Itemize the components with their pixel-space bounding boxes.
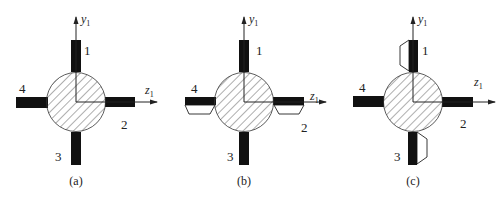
arm-label-3: 3 xyxy=(227,149,234,164)
z-axis-label: z1 xyxy=(309,89,319,105)
arm-label-3: 3 xyxy=(394,149,401,164)
arm-label-1: 1 xyxy=(84,43,91,58)
arm-3 xyxy=(71,132,81,165)
arm-label-2: 2 xyxy=(121,117,128,132)
panel-c: y1 z1 1 2 3 4 (c) xyxy=(353,12,495,188)
outlined-block-left-of-arm-1 xyxy=(400,40,409,71)
caption-b: (b) xyxy=(237,174,251,188)
panel-b: y1 z1 1 2 3 4 (b) xyxy=(185,12,326,188)
caption-c: (c) xyxy=(406,174,419,188)
arm-label-3: 3 xyxy=(55,149,62,164)
outlined-block-right-of-arm-3 xyxy=(417,132,427,164)
arm-4 xyxy=(185,97,216,105)
y-axis-label: y1 xyxy=(417,12,427,28)
y-axis-label: y1 xyxy=(248,12,258,28)
arm-3 xyxy=(239,132,249,165)
arm-label-4: 4 xyxy=(191,81,198,96)
z-axis-label: z1 xyxy=(473,75,483,91)
arm-label-2: 2 xyxy=(460,116,467,131)
z-axis-label: z1 xyxy=(144,83,154,99)
panel-a: y1 z1 1 2 3 4 (a) xyxy=(16,12,157,188)
cross-section-diagram: y1 z1 1 2 3 4 (a) y1 z1 1 2 3 4 (b) xyxy=(0,0,503,197)
arm-label-4: 4 xyxy=(19,81,26,96)
arm-3 xyxy=(408,132,417,165)
arm-label-1: 1 xyxy=(256,43,263,58)
arm-label-2: 2 xyxy=(301,120,308,135)
arm-label-4: 4 xyxy=(359,80,366,95)
caption-a: (a) xyxy=(69,174,82,188)
outlined-block-below-arm-4 xyxy=(185,105,215,114)
arm-4 xyxy=(16,97,48,108)
outlined-block-below-arm-2 xyxy=(274,105,304,114)
arm-4 xyxy=(353,96,384,107)
arm-label-1: 1 xyxy=(422,43,429,58)
y-axis-label: y1 xyxy=(80,12,90,28)
arm-2 xyxy=(273,97,304,105)
